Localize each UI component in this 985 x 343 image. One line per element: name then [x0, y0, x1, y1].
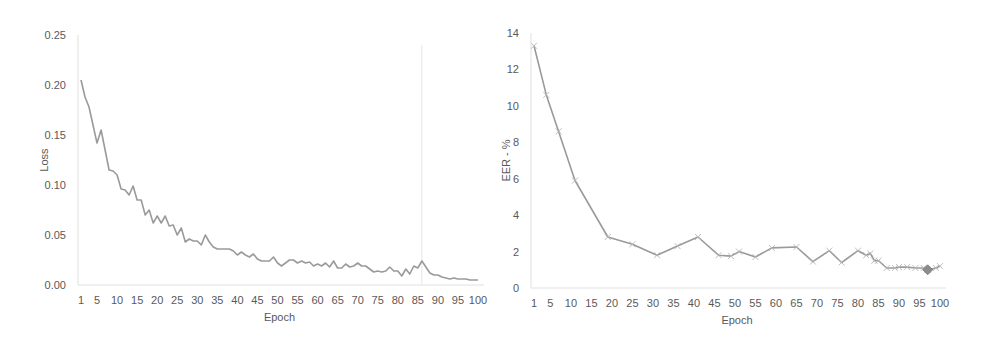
y-tick-label: 14: [507, 27, 519, 39]
x-marker-icon: [654, 252, 660, 258]
x-marker-icon: [695, 234, 701, 240]
x-tick-label: 10: [111, 294, 123, 306]
series-line: [81, 80, 478, 280]
x-tick-label: 100: [931, 297, 949, 309]
x-tick-label: 20: [151, 294, 163, 306]
x-tick-label: 35: [667, 297, 679, 309]
x-tick-label: 90: [432, 294, 444, 306]
x-marker-icon: [810, 259, 816, 265]
eer-chart-svg: 0246810121415101520253035404550556065707…: [492, 0, 985, 343]
y-tick-label: 0: [513, 282, 519, 294]
x-tick-label: 80: [392, 294, 404, 306]
x-tick-label: 45: [708, 297, 720, 309]
x-tick-label: 75: [372, 294, 384, 306]
x-tick-label: 60: [311, 294, 323, 306]
x-tick-label: 25: [626, 297, 638, 309]
y-tick-label: 0.05: [45, 229, 66, 241]
x-marker-icon: [839, 260, 845, 266]
x-tick-label: 5: [94, 294, 100, 306]
y-tick-label: 0.25: [45, 29, 66, 41]
x-tick-label: 35: [211, 294, 223, 306]
y-axis-title: Loss: [38, 148, 50, 172]
y-tick-label: 0.15: [45, 129, 66, 141]
x-marker-icon: [826, 248, 832, 254]
x-tick-label: 15: [131, 294, 143, 306]
loss-chart-svg: 0.000.050.100.150.200.251510152025303540…: [0, 0, 492, 343]
y-tick-label: 0.10: [45, 179, 66, 191]
x-tick-label: 95: [452, 294, 464, 306]
y-tick-label: 4: [513, 209, 519, 221]
y-tick-label: 0.20: [45, 79, 66, 91]
x-tick-label: 85: [412, 294, 424, 306]
y-tick-label: 10: [507, 100, 519, 112]
x-tick-label: 65: [790, 297, 802, 309]
x-tick-label: 30: [191, 294, 203, 306]
x-tick-label: 45: [251, 294, 263, 306]
x-marker-icon: [855, 248, 861, 254]
x-axis-title: Epoch: [264, 311, 295, 323]
x-tick-label: 100: [469, 294, 487, 306]
x-tick-label: 75: [831, 297, 843, 309]
x-tick-label: 80: [852, 297, 864, 309]
x-tick-label: 50: [729, 297, 741, 309]
x-tick-label: 70: [352, 294, 364, 306]
x-tick-label: 40: [231, 294, 243, 306]
x-tick-label: 1: [78, 294, 84, 306]
y-tick-label: 8: [513, 136, 519, 148]
x-tick-label: 15: [585, 297, 597, 309]
x-marker-icon: [675, 243, 681, 249]
y-tick-label: 12: [507, 63, 519, 75]
x-tick-label: 60: [770, 297, 782, 309]
series-line: [534, 46, 940, 270]
x-tick-label: 95: [913, 297, 925, 309]
x-tick-label: 40: [688, 297, 700, 309]
x-tick-label: 85: [872, 297, 884, 309]
x-axis-title: Epoch: [721, 314, 752, 326]
x-tick-label: 1: [531, 297, 537, 309]
x-tick-label: 5: [547, 297, 553, 309]
eer-chart: 0246810121415101520253035404550556065707…: [492, 0, 985, 343]
y-axis-title: EER - %: [500, 139, 512, 181]
x-tick-label: 20: [606, 297, 618, 309]
loss-chart: 0.000.050.100.150.200.251510152025303540…: [0, 0, 492, 343]
x-tick-label: 70: [811, 297, 823, 309]
x-tick-label: 55: [291, 294, 303, 306]
x-tick-label: 65: [332, 294, 344, 306]
x-tick-label: 55: [749, 297, 761, 309]
diamond-marker-icon: [923, 265, 933, 275]
y-tick-label: 6: [513, 173, 519, 185]
x-tick-label: 10: [565, 297, 577, 309]
x-tick-label: 50: [271, 294, 283, 306]
x-tick-label: 90: [893, 297, 905, 309]
y-tick-label: 0.00: [45, 279, 66, 291]
x-tick-label: 30: [647, 297, 659, 309]
x-tick-label: 25: [171, 294, 183, 306]
y-tick-label: 2: [513, 246, 519, 258]
